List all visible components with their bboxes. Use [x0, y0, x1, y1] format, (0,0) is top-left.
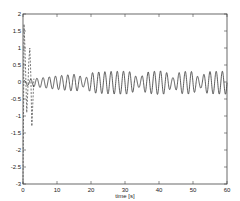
- plot-area: [23, 14, 227, 184]
- y-tick-label: 1: [18, 45, 22, 51]
- y-tick-label: -1.5: [11, 130, 22, 136]
- x-tick-label: 10: [54, 187, 61, 193]
- y-tick-label: -1: [16, 113, 22, 119]
- y-tick-label: 2: [18, 11, 22, 17]
- x-tick-label: 50: [190, 187, 197, 193]
- y-tick-label: 0: [18, 79, 22, 85]
- y-tick-label: -2: [16, 147, 22, 153]
- x-tick-label: 20: [88, 187, 95, 193]
- y-tick-label: -0.5: [11, 96, 22, 102]
- y-tick-label: -2.5: [11, 164, 22, 170]
- x-tick-label: 0: [21, 187, 25, 193]
- y-tick-label: 1.5: [13, 28, 22, 34]
- x-tick-label: 60: [224, 187, 231, 193]
- x-tick-label: 40: [156, 187, 163, 193]
- y-tick-label: 0.5: [13, 62, 22, 68]
- line-chart: 21.510.50-0.5-1-1.5-2-2.5-3 010203040506…: [0, 0, 240, 201]
- x-axis-label: time [s]: [115, 193, 135, 199]
